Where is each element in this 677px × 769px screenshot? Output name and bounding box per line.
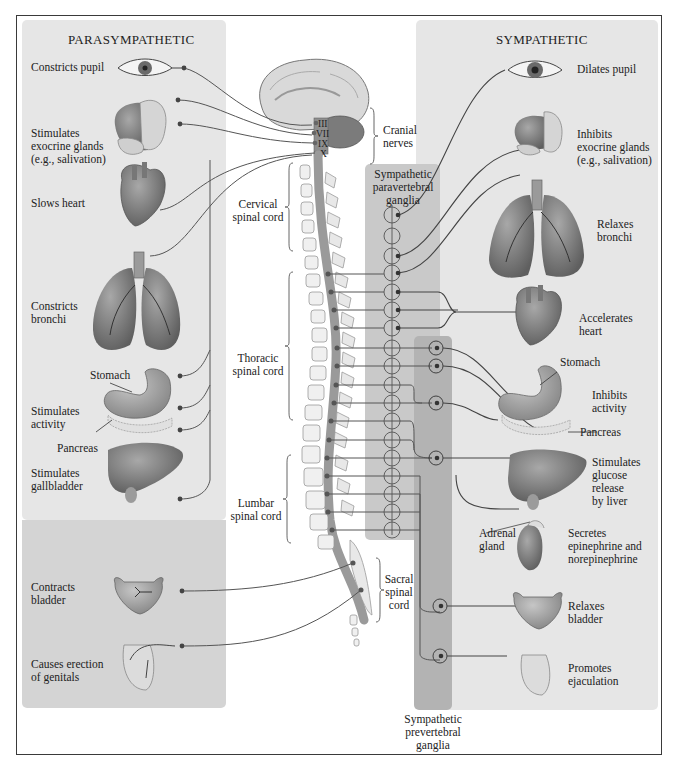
parasympathetic-title: PARASYMPATHETIC (68, 32, 194, 48)
symp-salivary-glands-icon (515, 112, 562, 155)
symp-eye-icon (508, 61, 562, 78)
sacral-label: Sacral spinal cord (381, 573, 417, 612)
para-effect-activity: Stimulates activity (31, 405, 80, 431)
lumbar-label: Lumbar spinal cord (228, 497, 284, 523)
para-effect-exocrine: Stimulates exocrine glands (e.g., saliva… (31, 127, 106, 166)
symp-effect-bronchi: Relaxes bronchi (597, 218, 633, 244)
symp-liver-icon (508, 450, 587, 510)
brain-icon (260, 59, 369, 154)
symp-heart-icon (516, 285, 562, 345)
cranial-nerve-vii: VII (316, 129, 329, 139)
sympathetic-title: SYMPATHETIC (496, 32, 588, 48)
prevertebral-ganglia (429, 341, 447, 663)
para-heart-icon (121, 162, 165, 226)
para-pancreas-label: Pancreas (57, 442, 98, 455)
para-effect-genitals: Causes erection of genitals (31, 658, 104, 684)
para-salivary-glands-icon (115, 100, 166, 154)
prevertebral-ganglia-label: Sympathetic prevertebral ganglia (396, 713, 470, 752)
symp-effect-heart: Accelerates heart (579, 312, 633, 338)
para-genitals-icon (123, 645, 175, 690)
symp-effect-liver: Stimulates glucose release by liver (592, 456, 641, 508)
cranial-nerve-ix: IX (318, 139, 328, 149)
para-effect-gallbladder: Stimulates gallbladder (31, 467, 83, 493)
symp-pancreas-label: Pancreas (580, 426, 621, 439)
symp-effect-activity: Inhibits activity (592, 389, 627, 415)
symp-stomach-icon (499, 366, 570, 435)
symp-effect-exocrine: Inhibits exocrine glands (e.g., salivati… (577, 128, 652, 167)
cranial-nerves-label: Cranial nerves (383, 124, 417, 150)
para-stomach-label: Stomach (90, 369, 130, 382)
para-bladder-icon (114, 578, 163, 614)
sympathetic-postganglionic-fibers (398, 70, 540, 656)
para-effect-bronchi: Constricts bronchi (31, 300, 78, 326)
symp-effect-adrenal: Secretes epinephrine and norepinephrine (568, 527, 642, 566)
para-effect-bladder: Contracts bladder (31, 581, 75, 607)
para-effect-heart: Slows heart (31, 197, 85, 210)
anatomy-illustration: III VII IX X (0, 0, 677, 769)
symp-adrenal-label: Adrenal gland (479, 527, 516, 553)
symp-bladder-icon (513, 593, 562, 629)
cervical-label: Cervical spinal cord (230, 198, 286, 224)
symp-effect-bladder: Relaxes bladder (568, 600, 604, 626)
para-effect-pupil: Constricts pupil (31, 61, 104, 74)
para-lungs-icon (93, 252, 180, 350)
para-liver-icon (108, 443, 183, 503)
cranial-nerve-iii: III (318, 119, 328, 129)
paravertebral-ganglia-label: Sympathetic paravertebral ganglia (366, 168, 440, 207)
symp-lungs-icon (489, 180, 584, 278)
symp-stomach-label: Stomach (560, 356, 600, 369)
symp-effect-genitals: Promotes ejaculation (568, 662, 618, 688)
symp-effect-pupil: Dilates pupil (577, 63, 636, 76)
spinal-column (300, 155, 372, 646)
para-eye-icon (118, 59, 184, 76)
thoracic-label: Thoracic spinal cord (230, 352, 286, 378)
symp-genitals-icon (521, 655, 550, 695)
